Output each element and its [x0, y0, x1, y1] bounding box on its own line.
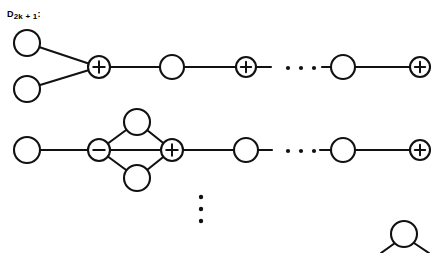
figure-label-base: D [7, 9, 14, 19]
ellipsis-dot [199, 207, 203, 211]
graph-node[interactable] [236, 57, 256, 77]
ellipsis-dot [286, 149, 290, 153]
figure-label-colon: : [37, 9, 40, 19]
node-circle[interactable] [124, 165, 150, 191]
edge-stub [381, 243, 395, 253]
ellipsis-dot [312, 66, 316, 70]
graph-node[interactable] [410, 140, 430, 160]
node-circle[interactable] [391, 221, 417, 247]
graph-node[interactable] [88, 56, 110, 78]
graph-node[interactable] [331, 138, 355, 162]
graph-node[interactable] [14, 30, 40, 56]
row-1-fork-chain [14, 30, 430, 102]
node-circle[interactable] [234, 138, 258, 162]
node-circle[interactable] [331, 138, 355, 162]
graph-node[interactable] [160, 55, 184, 79]
graph-node[interactable] [391, 221, 417, 247]
ellipsis-dot [199, 219, 203, 223]
graph-node[interactable] [14, 137, 40, 163]
figure-label-subscript: 2k + 1 [14, 12, 38, 21]
ellipsis-dot [286, 66, 290, 70]
node-circle[interactable] [124, 109, 150, 135]
ellipsis-dot [299, 66, 303, 70]
ellipsis-dot [299, 149, 303, 153]
graph-node[interactable] [410, 57, 430, 77]
row-2-diamond-chain [14, 109, 430, 191]
graph-node[interactable] [161, 139, 183, 161]
ellipsis-dot [199, 195, 203, 199]
graph-node[interactable] [331, 55, 355, 79]
figure-label: D2k + 1: [7, 3, 41, 21]
graph-node[interactable] [88, 139, 110, 161]
node-circle[interactable] [331, 55, 355, 79]
row-3-partial-bottom [381, 221, 429, 253]
node-circle[interactable] [160, 55, 184, 79]
graph-node[interactable] [124, 109, 150, 135]
node-circle[interactable] [14, 30, 40, 56]
graph-diagram [0, 0, 440, 253]
node-circle[interactable] [14, 76, 40, 102]
edge-stub [414, 243, 429, 253]
graph-node[interactable] [234, 138, 258, 162]
vertical-ellipsis [199, 195, 203, 223]
graph-node[interactable] [14, 76, 40, 102]
ellipsis-dot [312, 149, 316, 153]
graph-node[interactable] [124, 165, 150, 191]
node-circle[interactable] [14, 137, 40, 163]
figure-container: D2k + 1: [0, 0, 440, 253]
